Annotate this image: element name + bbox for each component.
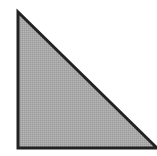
diagram-canvas [0, 0, 157, 156]
right-triangle-shape [18, 12, 157, 148]
